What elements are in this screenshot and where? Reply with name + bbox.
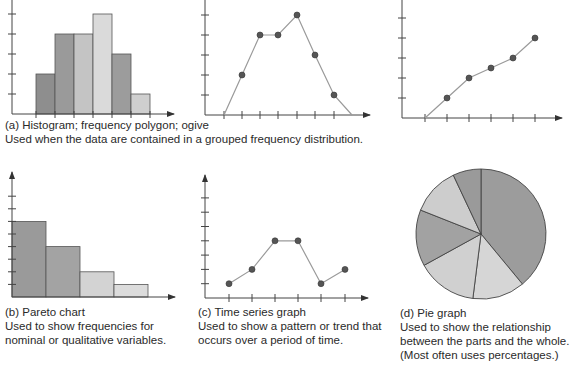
data-point: [510, 55, 516, 61]
data-point: [342, 266, 348, 272]
caption-b: (b) Pareto chart Used to show frequencie…: [5, 305, 166, 347]
histogram-chart: [8, 0, 174, 118]
histogram-bars: [36, 14, 150, 114]
data-point: [257, 32, 263, 38]
pareto-chart: [8, 172, 175, 297]
caption-c-line1: Used to show a pattern or trend that: [198, 319, 381, 333]
pie-chart: [416, 169, 546, 299]
caption-d-line2: between the parts and the whole.: [400, 334, 569, 348]
histogram-bar: [93, 14, 112, 114]
data-point: [318, 281, 324, 287]
axis-ticks: [398, 18, 535, 122]
data-point: [226, 281, 232, 287]
caption-b-line1: Used to show frequencies for: [5, 319, 166, 333]
axis-ticks: [201, 15, 334, 119]
data-point: [466, 75, 472, 81]
pareto-bar: [114, 284, 148, 297]
histogram-bar: [55, 34, 74, 114]
data-point: [532, 35, 538, 41]
histogram-bar: [36, 74, 55, 114]
data-point: [488, 65, 494, 71]
data-point: [275, 32, 281, 38]
caption-c-title: (c) Time series graph: [198, 305, 381, 319]
pareto-bar: [46, 247, 80, 297]
caption-c-line2: occurs over a period of time.: [198, 333, 381, 347]
polygon-line: [224, 12, 352, 115]
caption-a-desc: Used when the data are contained in a gr…: [5, 132, 363, 146]
caption-b-line2: nominal or qualitative variables.: [5, 333, 166, 347]
pareto-bar: [12, 221, 46, 297]
data-point: [295, 238, 301, 244]
data-point: [239, 72, 245, 78]
data-line: [425, 38, 535, 118]
time-series-line: [226, 238, 348, 287]
caption-d-line1: Used to show the relationship: [400, 320, 569, 334]
data-point: [444, 95, 450, 101]
axis-ticks: [201, 198, 345, 302]
time-series-chart: [201, 175, 368, 302]
pareto-bars: [12, 221, 148, 297]
data-line: [229, 241, 345, 284]
pareto-bar: [80, 272, 114, 297]
frequency-polygon-chart: [201, 0, 370, 119]
data-line: [224, 15, 352, 115]
histogram-bar: [131, 94, 150, 114]
caption-d-line3: (Most often uses percentages.): [400, 348, 569, 362]
ogive-chart: [398, 0, 562, 122]
data-point: [272, 238, 278, 244]
data-point: [331, 92, 337, 98]
caption-a-title: (a) Histogram; frequency polygon; ogive: [5, 118, 363, 132]
histogram-bar: [74, 34, 93, 114]
histogram-bar: [112, 54, 131, 114]
caption-a: (a) Histogram; frequency polygon; ogive …: [5, 118, 363, 146]
caption-b-title: (b) Pareto chart: [5, 305, 166, 319]
caption-c: (c) Time series graph Used to show a pat…: [198, 305, 381, 347]
data-point: [249, 266, 255, 272]
ogive-line: [425, 35, 538, 118]
data-point: [294, 12, 300, 18]
caption-d-title: (d) Pie graph: [400, 306, 569, 320]
caption-d: (d) Pie graph Used to show the relations…: [400, 306, 569, 362]
data-point: [312, 52, 318, 58]
